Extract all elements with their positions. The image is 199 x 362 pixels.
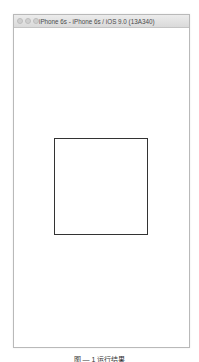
simulator-window: iPhone 6s - iPhone 6s / iOS 9.0 (13A340) xyxy=(13,14,190,348)
square-view xyxy=(54,138,148,235)
title-bar[interactable]: iPhone 6s - iPhone 6s / iOS 9.0 (13A340) xyxy=(14,15,189,28)
minimize-button-icon[interactable] xyxy=(25,18,31,24)
page: iPhone 6s - iPhone 6s / iOS 9.0 (13A340)… xyxy=(0,0,199,362)
window-title: iPhone 6s - iPhone 6s / iOS 9.0 (13A340) xyxy=(39,15,155,28)
device-screen xyxy=(14,28,189,347)
close-button-icon[interactable] xyxy=(17,18,23,24)
window-controls xyxy=(17,18,39,24)
figure-caption: 图 — 1 运行结果 xyxy=(0,354,199,362)
